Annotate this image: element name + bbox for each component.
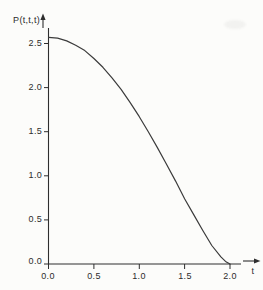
x-axis-label: t — [247, 266, 259, 277]
y-axis-label: P(t,t,t) — [6, 15, 40, 26]
y-axis-arrow-icon — [40, 14, 45, 29]
y-tick-label: 2.0 — [16, 82, 42, 93]
y-tick-label: 2.5 — [16, 38, 42, 49]
x-tick-label: 0.0 — [36, 271, 60, 282]
y-tick-label: 0.5 — [16, 214, 42, 225]
x-axis-arrow-icon — [243, 258, 261, 263]
figure-canvas: P(t,t,t) t 2.5 2.0 1.5 1.0 0.5 0.0 0.0 0… — [0, 0, 263, 290]
y-tick-label: 1.0 — [16, 170, 42, 181]
x-tick-label: 1.5 — [173, 271, 197, 282]
x-tick-marks — [49, 264, 231, 269]
y-tick-label: 0.0 — [16, 256, 42, 267]
x-tick-label: 2.0 — [218, 271, 242, 282]
x-tick-label: 0.5 — [82, 271, 106, 282]
curve-path — [49, 37, 231, 264]
y-tick-label: 1.5 — [16, 126, 42, 137]
x-tick-label: 1.0 — [127, 271, 151, 282]
